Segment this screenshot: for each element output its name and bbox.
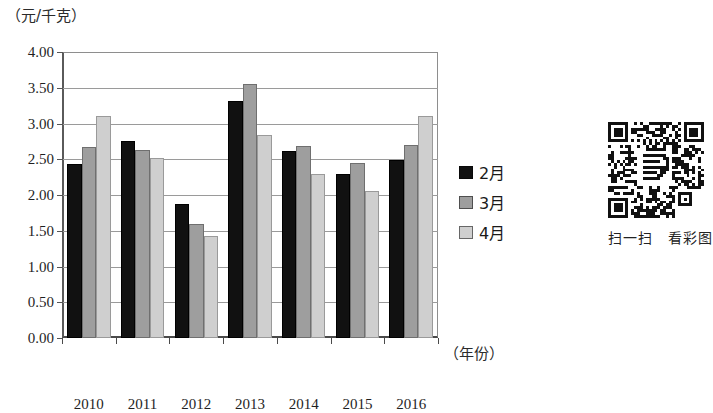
chart-legend: 2月3月4月 xyxy=(459,164,505,254)
bar-2016-3月 xyxy=(404,145,419,338)
plot-wrapper: 0.000.501.001.502.002.503.003.504.00 201… xyxy=(62,52,438,338)
y-tick-label: 0.00 xyxy=(0,331,54,346)
x-tick-mark xyxy=(169,338,170,344)
y-tick-label: 2.00 xyxy=(0,188,54,203)
bar-2015-2月 xyxy=(336,174,351,338)
legend-label: 3月 xyxy=(479,190,505,214)
x-tick-label-2012: 2012 xyxy=(181,396,211,413)
bar-2016-4月 xyxy=(418,116,433,338)
bar-2014-4月 xyxy=(311,174,326,338)
bar-2012-3月 xyxy=(189,224,204,338)
x-tick-mark-origin xyxy=(62,338,63,344)
x-tick-mark xyxy=(384,338,385,344)
bar-2010-3月 xyxy=(82,147,97,338)
bar-2011-2月 xyxy=(121,141,136,338)
bar-2010-4月 xyxy=(96,116,111,338)
legend-label: 2月 xyxy=(479,160,505,184)
bar-2012-4月 xyxy=(204,236,219,338)
y-axis-unit-label: （元/千克） xyxy=(6,4,86,25)
bar-2012-2月 xyxy=(175,204,190,338)
legend-item-4月[interactable]: 4月 xyxy=(459,224,505,240)
x-tick-label-2015: 2015 xyxy=(342,396,372,413)
bar-2015-3月 xyxy=(350,163,365,338)
qr-block[interactable]: 扫一扫 看彩图 xyxy=(608,122,713,247)
y-tick-label: 1.00 xyxy=(0,259,54,274)
legend-label: 4月 xyxy=(479,220,505,244)
qr-code-image[interactable] xyxy=(608,122,704,218)
bar-2011-3月 xyxy=(135,150,150,338)
bar-2016-2月 xyxy=(389,160,404,338)
bar-2014-2月 xyxy=(282,151,297,338)
qr-caption: 扫一扫 看彩图 xyxy=(608,227,713,247)
bar-2011-4月 xyxy=(150,158,165,338)
y-tick-label: 2.50 xyxy=(0,152,54,167)
bar-2010-2月 xyxy=(67,164,82,338)
legend-item-2月[interactable]: 2月 xyxy=(459,164,505,180)
bar-2015-4月 xyxy=(365,191,380,338)
bar-2013-4月 xyxy=(257,135,272,338)
bars-layer xyxy=(62,52,438,338)
x-tick-label-2013: 2013 xyxy=(235,396,265,413)
legend-swatch-icon xyxy=(459,166,473,179)
x-tick-label-2010: 2010 xyxy=(74,396,104,413)
y-tick-label: 4.00 xyxy=(0,45,54,60)
x-tick-label-2014: 2014 xyxy=(289,396,319,413)
y-tick-label: 1.50 xyxy=(0,223,54,238)
x-tick-mark xyxy=(223,338,224,344)
y-tick-label: 3.50 xyxy=(0,80,54,95)
legend-swatch-icon xyxy=(459,196,473,209)
x-tick-mark xyxy=(277,338,278,344)
x-axis-name: （年份） xyxy=(444,342,504,363)
y-tick-label: 3.00 xyxy=(0,116,54,131)
y-tick-label: 0.50 xyxy=(0,295,54,310)
bar-2013-3月 xyxy=(243,84,258,338)
legend-swatch-icon xyxy=(459,226,473,239)
x-tick-label-2016: 2016 xyxy=(396,396,426,413)
bar-2014-3月 xyxy=(296,146,311,338)
x-tick-mark xyxy=(331,338,332,344)
legend-item-3月[interactable]: 3月 xyxy=(459,194,505,210)
x-tick-label-2011: 2011 xyxy=(128,396,157,413)
x-tick-mark xyxy=(438,338,439,344)
x-tick-mark xyxy=(116,338,117,344)
bar-2013-2月 xyxy=(228,101,243,338)
